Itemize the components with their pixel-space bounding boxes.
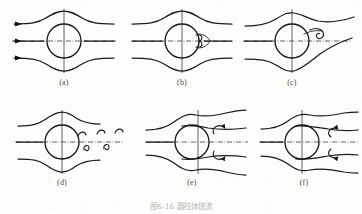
panel-a: (a) (4, 4, 124, 78)
panel-f-diagram (258, 104, 362, 178)
panel-d-diagram (12, 104, 130, 178)
streamline-lower (245, 38, 352, 71)
figure-caption: 图6-16 圆柱体绕流 (0, 199, 362, 214)
panel-e-diagram (140, 104, 252, 178)
streamline-upper (18, 112, 100, 126)
panel-label-c: (c) (272, 78, 312, 87)
shear-layer-upper (296, 126, 358, 131)
figure-root: (a) (b) (0, 0, 362, 214)
panel-d: (d) (12, 104, 130, 178)
shear-layer-lower (296, 154, 358, 159)
panel-label-b: (b) (162, 78, 202, 87)
panel-b-diagram (124, 4, 240, 78)
panel-e: (e) (140, 104, 252, 178)
vortex-upper-2 (97, 130, 105, 134)
panel-c: (c) (240, 4, 360, 78)
vortex-upper-3 (115, 129, 123, 133)
recirc-arrow-lower (329, 149, 338, 158)
panel-b: (b) (124, 4, 240, 78)
inlet-arrow-lower-icon (15, 56, 22, 61)
vortex-upper-1 (78, 132, 86, 136)
panel-a-diagram (4, 4, 124, 78)
vortex-lower-1 (84, 146, 89, 151)
panel-label-d: (d) (42, 178, 82, 187)
panel-label-e: (e) (172, 178, 212, 187)
panel-label-a: (a) (44, 78, 84, 87)
panel-c-diagram (240, 4, 360, 78)
vortex-lower-2 (104, 145, 109, 150)
streamline-upper (245, 13, 354, 26)
streamline-lower (18, 159, 100, 172)
inlet-arrow-center-icon (15, 39, 22, 44)
shed-vortex-spiral (310, 29, 324, 39)
panel-label-f: (f) (284, 178, 324, 187)
inlet-arrow-upper-icon (15, 22, 22, 27)
panel-f: (f) (258, 104, 362, 178)
streamline-upper-outer (146, 110, 246, 130)
